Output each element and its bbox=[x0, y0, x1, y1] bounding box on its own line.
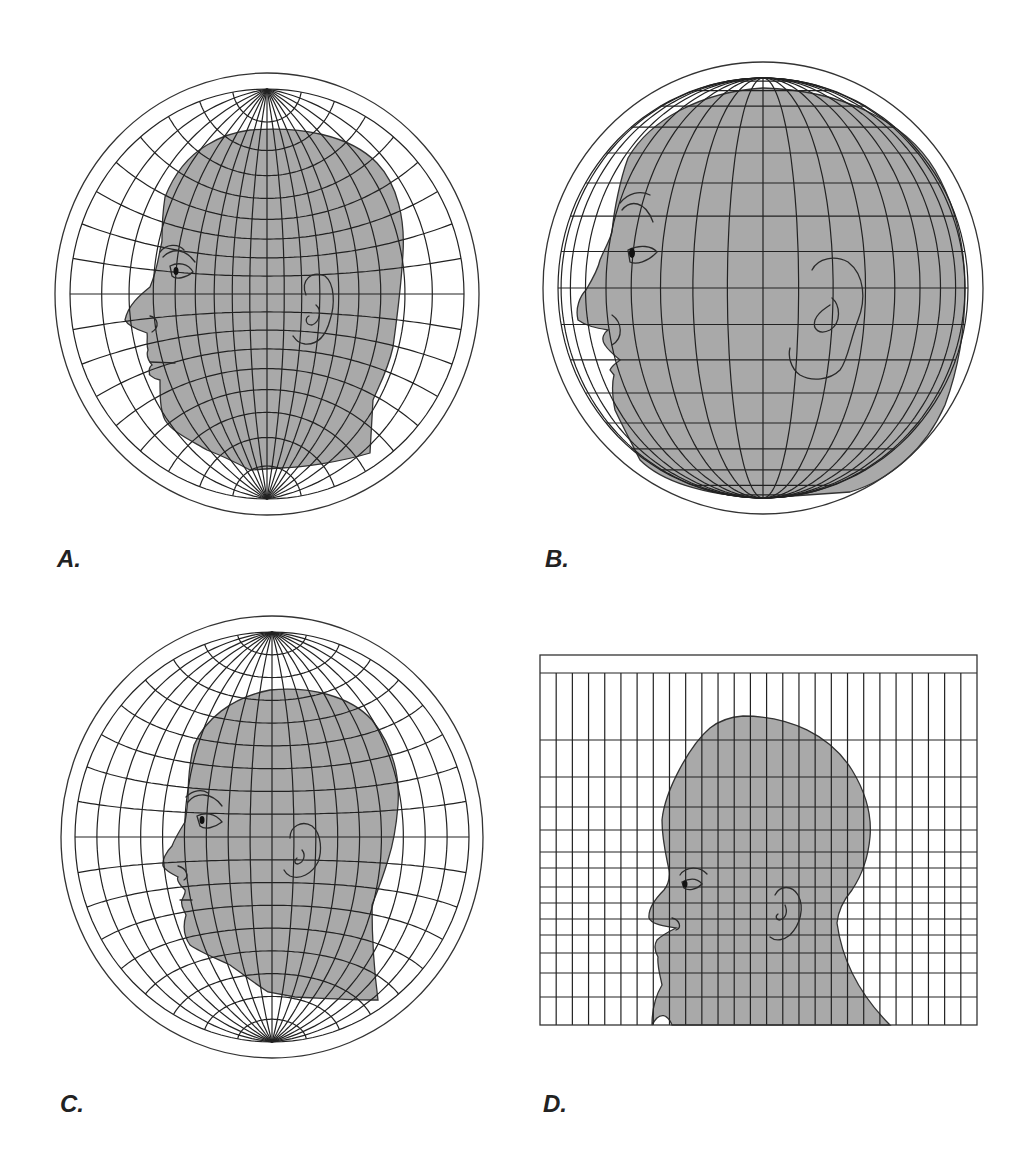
figure-canvas bbox=[0, 0, 1035, 1169]
pupil bbox=[629, 248, 635, 258]
head-silhouette bbox=[577, 88, 965, 498]
panel-label-c: C. bbox=[60, 1090, 84, 1118]
pupil bbox=[683, 881, 688, 888]
panel-label-a: A. bbox=[57, 545, 81, 573]
panel-c-azimuthal bbox=[61, 616, 483, 1058]
panel-label-d: D. bbox=[543, 1090, 567, 1118]
pupil bbox=[174, 267, 179, 275]
panel-d-mercator bbox=[540, 655, 977, 1025]
pupil bbox=[200, 816, 205, 824]
panel-label-b: B. bbox=[545, 545, 569, 573]
panel-b-orthographic bbox=[543, 62, 983, 514]
panel-a-stereographic bbox=[55, 73, 479, 515]
graticule-a bbox=[70, 89, 464, 499]
head-silhouette bbox=[163, 689, 398, 1000]
graticule-c bbox=[75, 632, 469, 1042]
graticule-b bbox=[558, 78, 968, 498]
